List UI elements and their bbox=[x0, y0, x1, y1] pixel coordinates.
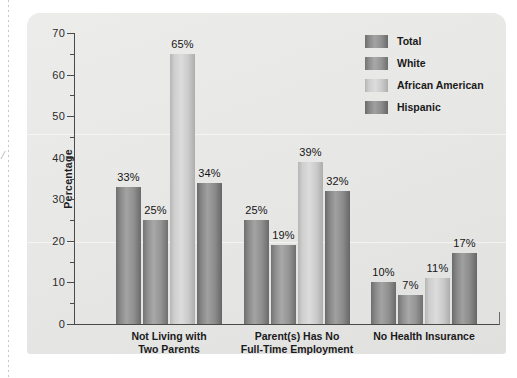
y-axis-minor-tick bbox=[70, 220, 74, 221]
bar-value-label: 19% bbox=[272, 229, 295, 241]
x-axis-category-label: No Health Insurance bbox=[373, 330, 475, 343]
bar bbox=[398, 295, 423, 324]
bar bbox=[143, 220, 168, 324]
bar bbox=[271, 245, 296, 324]
y-axis-tick-label: 30 bbox=[52, 193, 65, 205]
bar bbox=[116, 187, 141, 324]
x-axis-category-label-line: Two Parents bbox=[131, 343, 206, 356]
y-axis-minor-tick bbox=[70, 303, 74, 304]
y-axis-tick-label: 40 bbox=[52, 152, 65, 164]
bar bbox=[452, 253, 477, 324]
y-axis-minor-tick bbox=[70, 179, 74, 180]
plot-right-rule bbox=[499, 312, 500, 325]
bar bbox=[298, 162, 323, 324]
y-axis-minor-tick bbox=[70, 95, 74, 96]
y-axis-tick-label: 70 bbox=[52, 27, 65, 39]
bar-value-label: 34% bbox=[198, 167, 221, 179]
y-axis-tick-label: 60 bbox=[52, 69, 65, 81]
y-axis-major-tick bbox=[67, 33, 74, 34]
bar bbox=[170, 54, 195, 324]
bar-value-label: 25% bbox=[245, 204, 268, 216]
bar-value-label: 33% bbox=[117, 171, 140, 183]
x-axis-category-label-line: No Health Insurance bbox=[373, 330, 475, 343]
y-axis-tick-label: 0 bbox=[59, 318, 65, 330]
bar-value-label: 32% bbox=[326, 175, 349, 187]
bar-value-label: 65% bbox=[171, 38, 194, 50]
bar-value-label: 17% bbox=[453, 237, 476, 249]
bar-value-label: 25% bbox=[144, 204, 167, 216]
y-axis-minor-tick bbox=[70, 262, 74, 263]
bar bbox=[197, 183, 222, 324]
chart-panel: TotalWhiteAfrican AmericanHispanic Perce… bbox=[27, 13, 506, 354]
bar-value-label: 10% bbox=[372, 266, 395, 278]
bar bbox=[325, 191, 350, 324]
y-axis-major-tick bbox=[67, 324, 74, 325]
y-axis-tick-label: 20 bbox=[52, 235, 65, 247]
x-axis-category-label-line: Not Living with bbox=[131, 330, 206, 343]
y-axis-major-tick bbox=[67, 241, 74, 242]
y-axis-major-tick bbox=[67, 199, 74, 200]
x-axis-category-label: Not Living withTwo Parents bbox=[131, 330, 206, 356]
y-axis-major-tick bbox=[67, 282, 74, 283]
x-axis-category-label-line: Parent(s) Has No bbox=[241, 330, 353, 343]
page-margin-mark: / bbox=[1, 148, 10, 162]
y-axis-minor-tick bbox=[70, 54, 74, 55]
page-scan-edge-dotted-line bbox=[8, 0, 9, 378]
bar bbox=[244, 220, 269, 324]
y-axis-tick-label: 50 bbox=[52, 110, 65, 122]
plot-area: Percentage 010203040506070 33%25%65%34%2… bbox=[74, 33, 499, 324]
bar-value-label: 7% bbox=[402, 279, 418, 291]
y-axis-tick-label: 10 bbox=[52, 276, 65, 288]
y-axis-line bbox=[74, 33, 75, 324]
y-axis-major-tick bbox=[67, 75, 74, 76]
x-axis-category-label: Parent(s) Has NoFull-Time Employment bbox=[241, 330, 353, 356]
y-axis-minor-tick bbox=[70, 137, 74, 138]
bar bbox=[425, 278, 450, 324]
x-axis-category-label-line: Full-Time Employment bbox=[241, 343, 353, 356]
bar-value-label: 39% bbox=[299, 146, 322, 158]
x-axis-line bbox=[74, 324, 500, 325]
y-axis-major-tick bbox=[67, 158, 74, 159]
bar bbox=[371, 282, 396, 324]
y-axis-major-tick bbox=[67, 116, 74, 117]
bar-value-label: 11% bbox=[427, 262, 449, 274]
